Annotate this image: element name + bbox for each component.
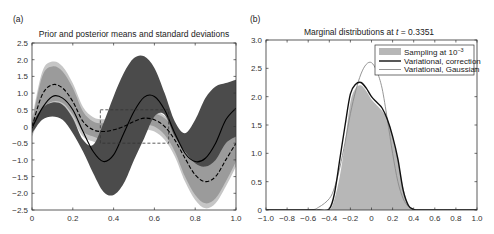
y-tick-label: 2.0	[17, 56, 29, 65]
y-tick-label: 0.5	[251, 178, 263, 187]
y-tick-label: 1.5	[251, 121, 263, 130]
panel-a-label: (a)	[13, 14, 24, 24]
legend-label-sampling: Sampling at 10−3	[404, 47, 464, 57]
panel-b-label: (b)	[250, 14, 261, 24]
y-tick-label: −0.5	[12, 139, 28, 148]
x-tick-label: 0.8	[450, 214, 462, 223]
x-tick-label: 0.8	[190, 214, 202, 223]
x-tick-label: −0.8	[279, 214, 295, 223]
x-tick-label: 0.6	[429, 214, 441, 223]
x-tick-label: −0.6	[300, 214, 316, 223]
sampling-histogram-area	[266, 85, 477, 211]
x-tick-label: −0.4	[321, 214, 337, 223]
x-tick-label: −0.2	[343, 214, 359, 223]
x-tick-label: 0.4	[108, 214, 120, 223]
y-tick-label: −1.0	[12, 156, 28, 165]
y-tick-label: 1.0	[251, 149, 263, 158]
x-tick-label: 0	[30, 214, 35, 223]
y-tick-label: 0.5	[17, 106, 29, 115]
y-tick-label: 1.5	[17, 72, 29, 81]
panel-b-plot-area	[266, 62, 477, 211]
x-tick-label: 0.2	[387, 214, 399, 223]
y-tick-label: 2.0	[251, 93, 263, 102]
panel-b: (b) Marginal distributions at t = 0.3351…	[250, 14, 483, 223]
x-tick-label: −1.0	[258, 214, 274, 223]
panel-a-plot-area	[32, 55, 236, 208]
y-tick-label: −2.5	[12, 206, 28, 215]
x-tick-label: 0.4	[408, 214, 420, 223]
y-tick-label: −1.5	[12, 173, 28, 182]
y-tick-label: 2.5	[251, 64, 263, 73]
figure: (a) Prior and posterior means and standa…	[0, 0, 494, 234]
panel-a-title: Prior and posterior means and standard d…	[39, 29, 229, 39]
y-tick-label: 0	[24, 123, 29, 132]
legend: Sampling at 10−3 Variational, correction…	[375, 45, 481, 75]
x-tick-label: 0.6	[149, 214, 161, 223]
x-tick-label: 1.0	[471, 214, 483, 223]
y-tick-label: 1.0	[17, 89, 29, 98]
x-tick-label: 0	[369, 214, 374, 223]
y-tick-label: 2.5	[17, 39, 29, 48]
x-tick-label: 0.2	[67, 214, 79, 223]
panel-b-title: Marginal distributions at t = 0.3351	[304, 27, 434, 37]
legend-swatch-sampling	[379, 48, 401, 55]
x-tick-label: 1.0	[230, 214, 242, 223]
y-tick-label: −2.0	[12, 189, 28, 198]
y-tick-label: 3.0	[251, 36, 263, 45]
panel-a: (a) Prior and posterior means and standa…	[12, 14, 242, 223]
legend-label-gaussian: Variational, Gaussian	[404, 65, 479, 74]
